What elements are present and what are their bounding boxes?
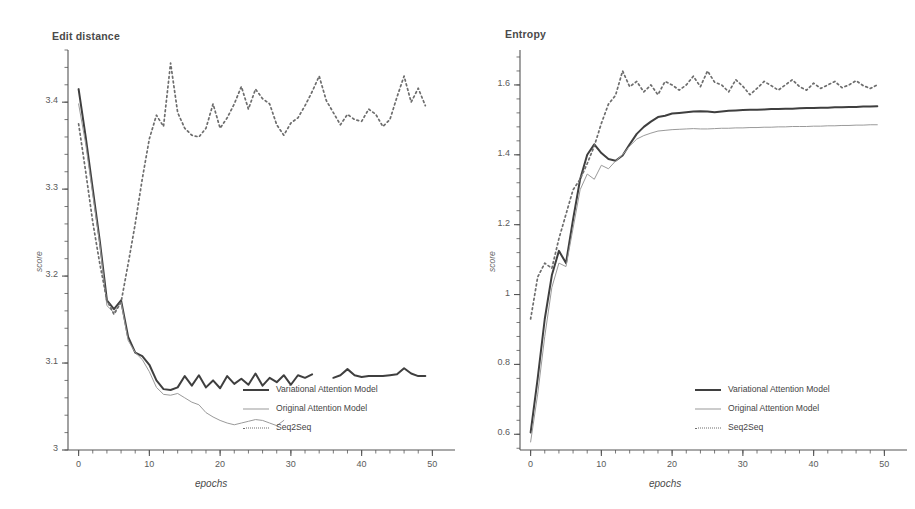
legend-line-seq2seq-icon [243, 423, 269, 433]
legend-item-original: Original Attention Model [243, 399, 378, 418]
y-tick-label: 0.8 [474, 357, 510, 367]
y-tick-label: 3.4 [22, 95, 58, 105]
entropy-plot-svg [457, 0, 914, 509]
legend-line-original-icon [243, 404, 269, 414]
legend-item-seq2seq: Seq2Seq [243, 418, 378, 437]
legend-item-variational: Variational Attention Model [243, 380, 378, 399]
y-axis-label-right: score [487, 251, 497, 272]
x-tick-label: 20 [206, 459, 234, 469]
legend-left: Variational Attention Model Original Att… [243, 380, 378, 437]
panel-title-entropy: Entropy [505, 28, 546, 40]
y-tick-label: 3.3 [22, 182, 58, 192]
x-tick-label: 50 [870, 459, 898, 469]
x-axis-label-right: epochs [649, 478, 681, 489]
panel-title-edit-distance: Edit distance [52, 30, 120, 42]
panel-entropy: Entropy score epochs Variational Attenti… [457, 0, 914, 509]
y-tick-label: 1.4 [474, 148, 510, 158]
y-tick-label: 3.2 [22, 269, 58, 279]
legend-line-seq2seq-icon [695, 423, 721, 433]
x-tick-label: 30 [729, 459, 757, 469]
x-tick-label: 40 [348, 459, 376, 469]
legend-label-seq2seq: Seq2Seq [728, 422, 763, 433]
y-tick-label: 0.6 [474, 427, 510, 437]
y-tick-label: 1.2 [474, 218, 510, 228]
figure-container: Edit distance score epochs Variational A… [0, 0, 915, 509]
legend-right: Variational Attention Model Original Att… [695, 380, 830, 437]
x-tick-label: 50 [418, 459, 446, 469]
legend-label-variational: Variational Attention Model [728, 384, 830, 395]
edit-distance-plot-svg [0, 0, 457, 509]
legend-label-original: Original Attention Model [276, 403, 367, 414]
legend-line-variational-icon [243, 385, 269, 395]
legend-line-variational-icon [695, 385, 721, 395]
y-tick-label: 3 [22, 443, 58, 453]
x-axis-label-left: epochs [195, 478, 227, 489]
x-tick-label: 10 [587, 459, 615, 469]
x-tick-label: 0 [65, 459, 93, 469]
legend-item-variational: Variational Attention Model [695, 380, 830, 399]
x-tick-label: 30 [277, 459, 305, 469]
x-tick-label: 20 [658, 459, 686, 469]
legend-label-variational: Variational Attention Model [276, 384, 378, 395]
legend-label-seq2seq: Seq2Seq [276, 422, 311, 433]
legend-label-original: Original Attention Model [728, 403, 819, 414]
x-tick-label: 40 [800, 459, 828, 469]
y-tick-label: 1 [474, 288, 510, 298]
x-tick-label: 10 [135, 459, 163, 469]
y-tick-label: 1.6 [474, 78, 510, 88]
legend-item-original: Original Attention Model [695, 399, 830, 418]
legend-item-seq2seq: Seq2Seq [695, 418, 830, 437]
x-tick-label: 0 [517, 459, 545, 469]
legend-line-original-icon [695, 404, 721, 414]
panel-edit-distance: Edit distance score epochs Variational A… [0, 0, 457, 509]
y-tick-label: 3.1 [22, 356, 58, 366]
